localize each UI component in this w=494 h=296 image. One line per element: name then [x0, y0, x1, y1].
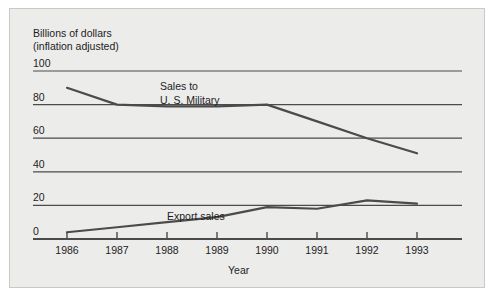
x-tick-labels-group: 19861987198819891990199119921993: [55, 244, 429, 256]
x-axis-label: Year: [228, 264, 250, 276]
y-tick-label: 40: [33, 158, 45, 170]
series-label-military-line1: Sales to: [160, 80, 198, 92]
x-tick-label: 1993: [405, 244, 429, 256]
series-label-export: Export sales: [167, 210, 225, 222]
y-tick-label: 60: [33, 124, 45, 136]
series-lines-group: [67, 88, 417, 232]
x-tick-label: 1989: [205, 244, 229, 256]
figure-container: Billions of dollars (inflation adjusted)…: [0, 0, 494, 296]
y-axis-label-line1: Billions of dollars: [33, 27, 112, 39]
x-tick-label: 1986: [55, 244, 79, 256]
y-tick-labels-group: 020406080100: [33, 57, 51, 237]
x-tick-label: 1988: [155, 244, 179, 256]
y-tick-label: 80: [33, 91, 45, 103]
x-tick-label: 1990: [255, 244, 279, 256]
y-tick-label: 20: [33, 191, 45, 203]
x-tick-marks-group: [67, 232, 417, 238]
x-tick-label: 1992: [355, 244, 379, 256]
y-tick-label: 0: [33, 225, 39, 237]
x-tick-label: 1987: [105, 244, 129, 256]
series-line: [67, 88, 417, 154]
series-label-military-line2: U. S. Military: [160, 94, 220, 106]
line-chart: Billions of dollars (inflation adjusted)…: [0, 0, 494, 296]
gridlines-group: [33, 71, 462, 239]
y-axis-label-line2: (inflation adjusted): [33, 40, 119, 52]
y-tick-label: 100: [33, 57, 51, 69]
x-tick-label: 1991: [305, 244, 329, 256]
